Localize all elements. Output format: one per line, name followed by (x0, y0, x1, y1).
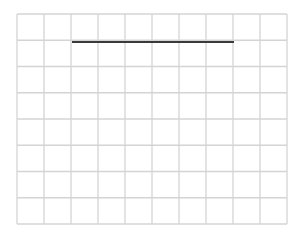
drawing-canvas[interactable] (0, 0, 304, 235)
grid (17, 14, 287, 224)
